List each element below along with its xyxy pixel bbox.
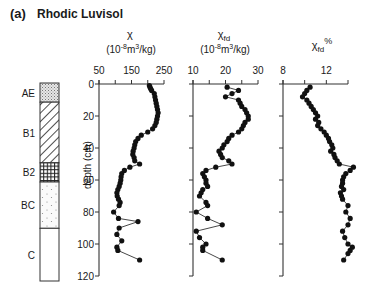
chifd-percent-panel-header: χfd% — [312, 36, 332, 54]
figure: (a) Rhodic Luvisol AEB1B2BCC 02040608010… — [0, 0, 375, 304]
x-tick-label: 20 — [220, 65, 232, 76]
chifd-percent-title: χfd% — [312, 36, 332, 54]
horizon-label: C — [28, 250, 35, 261]
soil-profile-column: AEB1B2BCC — [21, 83, 59, 281]
x-tick-label: 50 — [93, 65, 105, 76]
depth-tick-label: 80 — [83, 207, 95, 218]
horizon-label: BC — [21, 200, 35, 211]
chifd-percent-plot: 812 — [279, 65, 356, 276]
horizon-label: B2 — [23, 167, 36, 178]
depth-tick-label: 120 — [77, 271, 94, 282]
chi-panel-header: χ (10-8m3/kg) — [106, 28, 156, 55]
horizon-b2 — [40, 163, 59, 182]
chart-title: Rhodic Luvisol — [37, 7, 123, 21]
horizon-c — [40, 228, 59, 281]
panel-label: (a) — [10, 6, 26, 21]
horizon-bc — [40, 182, 59, 228]
chi-unit: (10-8m3/kg) — [106, 43, 156, 55]
horizon-ae — [40, 83, 59, 102]
x-tick-label: 150 — [123, 65, 140, 76]
horizon-label: AE — [22, 88, 36, 99]
x-tick-label: 10 — [187, 65, 199, 76]
x-tick-label: 250 — [156, 65, 173, 76]
depth-axis-label: depth (cm) — [82, 141, 93, 189]
chifd-panel-header: χfd (10-8m3/kg) — [200, 28, 250, 55]
chifd-title: χfd — [218, 28, 230, 43]
x-tick-label: 8 — [280, 65, 286, 76]
depth-tick-label: 100 — [77, 239, 94, 250]
depth-tick-label: 20 — [83, 111, 95, 122]
x-tick-label: 30 — [252, 65, 264, 76]
horizon-b1 — [40, 102, 59, 163]
chifd-unit: (10-8m3/kg) — [200, 43, 250, 55]
chi-plot: 50150250 — [93, 65, 172, 276]
chi-title: χ — [127, 28, 133, 40]
depth-tick-label: 0 — [88, 79, 94, 90]
horizon-label: B1 — [23, 128, 36, 139]
x-tick-label: 12 — [321, 65, 333, 76]
chifd-plot: 102030 — [187, 65, 264, 276]
plots: 50150250102030812 — [93, 65, 356, 276]
